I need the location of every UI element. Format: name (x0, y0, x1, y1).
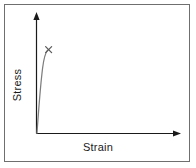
x-axis-label: Strain (0, 141, 196, 153)
arrow-right-icon (173, 130, 181, 136)
stress-strain-curve (37, 50, 48, 133)
y-axis-label-container: Stress (6, 52, 28, 118)
y-axis-label: Stress (11, 69, 23, 101)
arrow-up-icon (33, 12, 39, 20)
fracture-point-marker (46, 47, 52, 53)
stress-strain-figure: Strain Stress (0, 0, 196, 168)
